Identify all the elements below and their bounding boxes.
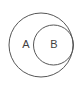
set-a-label: A: [22, 38, 30, 50]
euler-diagram-svg: A B: [0, 0, 80, 90]
set-a-circle: [9, 13, 73, 77]
set-b-label: B: [50, 38, 57, 50]
euler-diagram-canvas: A B: [0, 0, 80, 90]
